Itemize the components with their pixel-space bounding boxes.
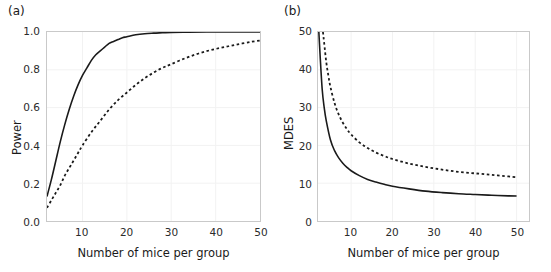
panel-a-xtick-40: 40 — [210, 226, 223, 238]
panel-a-xaxis-title: Number of mice per group — [46, 246, 261, 260]
panel-b-xtick-30: 30 — [427, 226, 440, 238]
panel-a-xtick-30: 30 — [165, 226, 178, 238]
panel-a-curves — [47, 32, 260, 221]
panel-a-ytick-0: 0.0 — [10, 216, 40, 228]
panel-a-xtick-20: 20 — [120, 226, 133, 238]
panel-a: (a) 0.0 0.2 0.4 0.6 0.8 1.0 10 20 30 40 … — [0, 0, 275, 272]
panel-b-label: (b) — [284, 4, 301, 18]
panel-b-ytick-10: 10 — [282, 178, 312, 190]
panel-b-plot-area — [317, 31, 530, 222]
panel-b-yaxis-title: MDES — [282, 117, 296, 150]
panel-b-xtick-50: 50 — [511, 226, 524, 238]
panel-b-xtick-20: 20 — [385, 226, 398, 238]
panel-a-plot-area — [46, 31, 261, 222]
panel-a-ytick-4: 0.8 — [10, 63, 40, 75]
figure-root: (a) 0.0 0.2 0.4 0.6 0.8 1.0 10 20 30 40 … — [0, 0, 551, 272]
panel-b-ytick-40: 40 — [282, 63, 312, 75]
panel-a-yaxis-title: Power — [10, 120, 24, 155]
panel-a-solid-curve — [47, 32, 260, 196]
panel-b: (b) 0 10 20 30 40 50 10 20 30 40 50 Numb… — [276, 0, 551, 272]
panel-a-xtick-50: 50 — [254, 226, 267, 238]
panel-a-ytick-1: 0.2 — [10, 178, 40, 190]
panel-a-label: (a) — [8, 4, 25, 18]
panel-a-ytick-3: 0.6 — [10, 101, 40, 113]
panel-b-curves — [318, 32, 529, 221]
panel-a-xtick-10: 10 — [75, 226, 88, 238]
panel-b-xtick-40: 40 — [469, 226, 482, 238]
panel-a-ytick-5: 1.0 — [10, 25, 40, 37]
panel-b-xtick-10: 10 — [344, 226, 357, 238]
panel-b-ytick-50: 50 — [282, 25, 312, 37]
panel-b-solid-curve — [319, 32, 517, 196]
panel-b-ytick-0: 0 — [282, 216, 312, 228]
panel-b-ytick-30: 30 — [282, 101, 312, 113]
panel-a-dashed-curve — [47, 41, 260, 208]
panel-b-xaxis-title: Number of mice per group — [317, 246, 530, 260]
panel-b-dashed-curve — [323, 32, 517, 177]
